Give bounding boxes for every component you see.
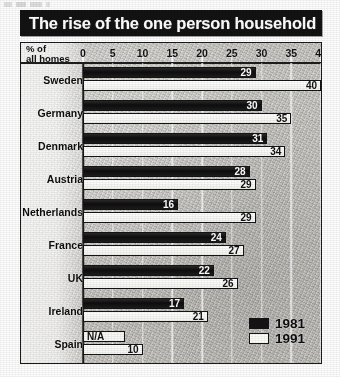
bar-1981-denmark: 31 (83, 133, 267, 144)
bar-1981-ireland: 17 (83, 298, 184, 309)
legend: 1981 1991 (244, 311, 311, 351)
bar-value: 29 (240, 214, 254, 222)
bar-1981-austria: 28 (83, 166, 250, 177)
legend-label-1981: 1981 (275, 317, 305, 330)
bar-1991-ireland: 21 (83, 311, 208, 322)
bar-value: 26 (223, 280, 237, 288)
bar-value: 24 (211, 234, 225, 242)
bar-1981-netherlands: 16 (83, 199, 178, 210)
bar-row: France2427 (21, 232, 321, 265)
bar-1981-spain-na: N/A (83, 331, 125, 342)
legend-swatch-1981 (249, 318, 269, 329)
x-axis-header: % of all homes 0510152025303540 (21, 43, 321, 63)
bar-1991-uk: 26 (83, 278, 238, 289)
chart-title-banner: The rise of the one person household (20, 10, 322, 36)
legend-label-1991: 1991 (275, 332, 305, 345)
bar-value: 17 (169, 300, 183, 308)
bar-value: 21 (193, 313, 207, 321)
bar-value: 34 (270, 148, 284, 156)
bar-value: 40 (306, 82, 320, 90)
bar-1991-france: 27 (83, 245, 244, 256)
bar-1991-spain: 10 (83, 344, 143, 355)
chart-title: The rise of the one person household (29, 14, 316, 33)
bar-1991-denmark: 34 (83, 146, 285, 157)
bar-value: 16 (163, 201, 177, 209)
bar-value: 10 (127, 346, 141, 354)
bar-row: UK2226 (21, 265, 321, 298)
category-label-netherlands: Netherlands (22, 206, 83, 218)
bar-value: 29 (240, 181, 254, 189)
category-label-austria: Austria (47, 173, 83, 185)
category-label-denmark: Denmark (38, 140, 83, 152)
category-label-france: France (49, 239, 83, 251)
bar-1981-sweden: 29 (83, 67, 256, 78)
bar-1981-uk: 22 (83, 265, 214, 276)
bar-1981-france: 24 (83, 232, 226, 243)
bar-row: Denmark3134 (21, 133, 321, 166)
bar-value: 35 (276, 115, 290, 123)
legend-item-1991: 1991 (249, 332, 305, 345)
bar-value: 29 (240, 69, 254, 77)
plot-area: % of all homes 0510152025303540 Sweden29… (20, 42, 322, 364)
category-label-germany: Germany (37, 107, 83, 119)
bar-row: Sweden2940 (21, 67, 321, 100)
legend-item-1981: 1981 (249, 317, 305, 330)
bar-row: Netherlands1629 (21, 199, 321, 232)
bar-value: 30 (246, 102, 260, 110)
category-label-spain: Spain (54, 338, 83, 350)
bar-1991-austria: 29 (83, 179, 256, 190)
bar-value: 27 (229, 247, 243, 255)
category-label-uk: UK (68, 272, 83, 284)
bar-value: 28 (234, 168, 248, 176)
scan-artifact (4, 2, 50, 7)
bar-row: Austria2829 (21, 166, 321, 199)
chart-figure: The rise of the one person household % o… (0, 0, 340, 377)
bar-value: 22 (199, 267, 213, 275)
bar-value: N/A (84, 333, 104, 341)
bar-1991-germany: 35 (83, 113, 291, 124)
bar-value: 31 (252, 135, 266, 143)
category-label-ireland: Ireland (49, 305, 83, 317)
bar-1991-netherlands: 29 (83, 212, 256, 223)
bar-row: Germany3035 (21, 100, 321, 133)
bar-1981-germany: 30 (83, 100, 262, 111)
category-label-sweden: Sweden (43, 74, 83, 86)
x-axis-label: % of all homes (26, 44, 82, 63)
legend-swatch-1991 (249, 333, 269, 344)
bar-1991-sweden: 40 (83, 80, 321, 91)
